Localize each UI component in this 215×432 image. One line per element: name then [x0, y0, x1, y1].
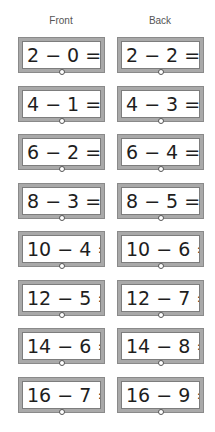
equation: 14 − 8 = _ [121, 332, 200, 360]
front-card: 6 − 2 = _ [18, 134, 105, 170]
back-card: 2 − 2 = _ [117, 37, 204, 73]
hole-icon [59, 118, 65, 124]
front-card: 8 − 3 = _ [18, 183, 105, 219]
hole-icon [59, 409, 65, 415]
equation: 8 − 5 = _ [121, 187, 200, 215]
front-card: 10 − 4 = _ [18, 231, 105, 267]
equation: 6 − 2 = _ [22, 138, 101, 166]
equation: 4 − 3 = _ [121, 90, 200, 118]
equation: 16 − 9 = _ [121, 381, 200, 409]
equation: 16 − 7 = _ [22, 381, 101, 409]
hole-icon [158, 69, 164, 75]
back-column-label: Back [120, 15, 200, 26]
hole-icon [59, 360, 65, 366]
back-card: 12 − 7 = _ [117, 280, 204, 316]
card-row: 16 − 7 = _ 16 − 9 = _ [18, 377, 204, 413]
hole-icon [158, 312, 164, 318]
back-card: 8 − 5 = _ [117, 183, 204, 219]
hole-icon [59, 263, 65, 269]
back-card: 6 − 4 = _ [117, 134, 204, 170]
equation: 2 − 2 = _ [121, 41, 200, 69]
back-card: 14 − 8 = _ [117, 328, 204, 364]
equation: 2 − 0 = _ [22, 41, 101, 69]
hole-icon [158, 166, 164, 172]
equation: 14 − 6 = _ [22, 332, 101, 360]
equation: 8 − 3 = _ [22, 187, 101, 215]
card-row: 2 − 0 = _ 2 − 2 = _ [18, 37, 204, 73]
front-card: 2 − 0 = _ [18, 37, 105, 73]
equation: 6 − 4 = _ [121, 138, 200, 166]
card-row: 14 − 6 = _ 14 − 8 = _ [18, 328, 204, 364]
hole-icon [158, 360, 164, 366]
hole-icon [158, 409, 164, 415]
equation: 4 − 1 = _ [22, 90, 101, 118]
hole-icon [59, 215, 65, 221]
equation: 10 − 6 = _ [121, 235, 200, 263]
hole-icon [59, 166, 65, 172]
card-row: 10 − 4 = _ 10 − 6 = _ [18, 231, 204, 267]
back-card: 16 − 9 = _ [117, 377, 204, 413]
equation: 12 − 5 = _ [22, 284, 101, 312]
hole-icon [158, 215, 164, 221]
front-card: 14 − 6 = _ [18, 328, 105, 364]
front-column-label: Front [21, 15, 101, 26]
hole-icon [158, 263, 164, 269]
hole-icon [158, 118, 164, 124]
back-card: 10 − 6 = _ [117, 231, 204, 267]
hole-icon [59, 312, 65, 318]
flashcard-grid: 2 − 0 = _ 2 − 2 = _ 4 − 1 = _ 4 − 3 = _ … [18, 37, 204, 425]
equation: 12 − 7 = _ [121, 284, 200, 312]
card-row: 12 − 5 = _ 12 − 7 = _ [18, 280, 204, 316]
card-row: 4 − 1 = _ 4 − 3 = _ [18, 86, 204, 122]
hole-icon [59, 69, 65, 75]
front-card: 16 − 7 = _ [18, 377, 105, 413]
equation: 10 − 4 = _ [22, 235, 101, 263]
card-row: 8 − 3 = _ 8 − 5 = _ [18, 183, 204, 219]
front-card: 4 − 1 = _ [18, 86, 105, 122]
front-card: 12 − 5 = _ [18, 280, 105, 316]
card-row: 6 − 2 = _ 6 − 4 = _ [18, 134, 204, 170]
back-card: 4 − 3 = _ [117, 86, 204, 122]
